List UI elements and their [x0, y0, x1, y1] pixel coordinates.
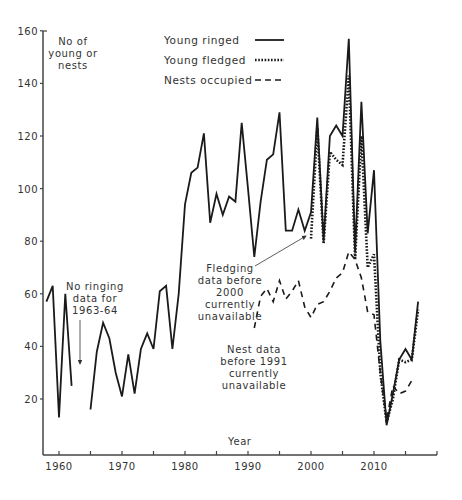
x-tick-label: 1960: [45, 461, 72, 472]
annotation-fledging: unavailable: [198, 311, 262, 322]
annotations: No ringingdata for1963-64Fledgingdata be…: [66, 236, 306, 391]
series-nests-occupied: [254, 252, 411, 420]
y-axis-label: nests: [58, 60, 88, 71]
y-tick-label: 140: [17, 78, 38, 89]
x-tick-label: 2000: [297, 461, 324, 472]
annotation-no-ringing: No ringing: [66, 281, 124, 292]
y-tick-label: 160: [17, 26, 38, 37]
annotation-fledging: currently: [205, 299, 255, 310]
y-tick-label: 40: [24, 341, 38, 352]
annotation-nest-data: before 1991: [220, 356, 287, 367]
series-young-fledged: [311, 76, 418, 423]
annotation-fledging: data before: [198, 275, 263, 286]
line-chart: 2040608010012014016019601970198019902000…: [0, 0, 462, 500]
y-tick-label: 120: [17, 131, 38, 142]
y-axis-label: young or: [48, 48, 98, 59]
legend-label: Young fledged: [163, 54, 246, 66]
annotation-nest-data: Nest data: [227, 344, 281, 355]
legend-label: Nests occupied: [164, 74, 252, 86]
annotation-no-ringing: data for: [73, 293, 118, 304]
legend: Young ringedYoung fledgedNests occupied: [163, 34, 284, 86]
y-tick-label: 60: [24, 289, 38, 300]
x-tick-label: 1980: [171, 461, 198, 472]
x-tick-label: 1970: [108, 461, 135, 472]
annotation-arrow: [255, 236, 306, 266]
y-tick-label: 20: [24, 394, 38, 405]
x-tick-label: 1990: [234, 461, 261, 472]
legend-label: Young ringed: [163, 34, 240, 46]
annotation-fledging: Fledging: [206, 263, 254, 274]
x-tick-label: 2010: [360, 461, 387, 472]
y-tick-label: 100: [17, 184, 38, 195]
annotation-no-ringing: 1963-64: [72, 305, 118, 316]
series-young-ringed: [46, 286, 71, 418]
y-tick-label: 80: [24, 236, 38, 247]
annotation-nest-data: currently: [229, 368, 279, 379]
y-axis-label: No of: [58, 36, 87, 47]
x-axis-label: Year: [227, 436, 252, 447]
annotation-fledging: 2000: [216, 287, 244, 298]
axes: 2040608010012014016019601970198019902000…: [17, 26, 437, 472]
annotation-nest-data: unavailable: [222, 380, 286, 391]
